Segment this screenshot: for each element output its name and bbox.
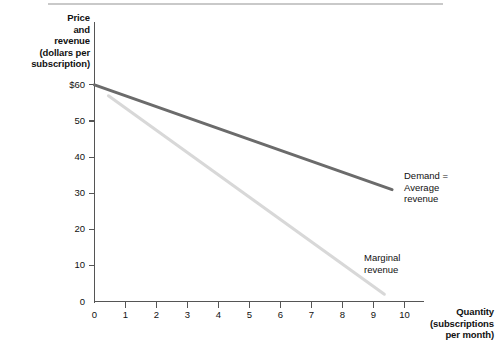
marginal-revenue-label-line-2: revenue [364,264,400,276]
x-axis-line [94,301,424,302]
demand-curve-label-line-1: Demand = [404,170,448,182]
y-axis-title-line-1: Price [8,12,90,24]
demand-curve-label-line-3: revenue [404,193,448,205]
y-axis-title-line-4: (dollars per [8,47,90,59]
y-axis-tick [89,84,95,85]
chart-figure: Price and revenue (dollars per subscript… [0,0,496,355]
x-axis-tick [156,302,157,308]
x-axis-tick-label: 6 [271,310,291,320]
x-axis-tick [311,302,312,308]
demand-curve-label: Demand = Average revenue [404,170,448,205]
y-axis-tick-label: 10 [51,260,85,270]
x-axis-tick [187,302,188,308]
x-axis-tick-label: 5 [240,310,260,320]
y-axis-tick [89,120,95,121]
x-axis-tick-label: 2 [147,310,167,320]
demand-curve-label-line-2: Average [404,182,448,194]
y-axis-line [94,22,95,303]
marginal-revenue-line [108,96,384,295]
y-axis-tick [89,265,95,266]
y-axis-title: Price and revenue (dollars per subscript… [8,12,90,70]
x-axis-tick-label: 10 [395,310,415,320]
x-axis-tick-label: 9 [364,310,384,320]
top-divider-rule [48,3,443,5]
y-axis-tick-label: 20 [51,224,85,234]
x-axis-title-line-3: per month) [398,329,494,341]
y-axis-title-line-5: subscription) [8,58,90,70]
y-axis-tick-label: $60 [51,80,85,90]
y-axis-tick [89,157,95,158]
x-axis-tick-label: 4 [209,310,229,320]
y-axis-tick-label: 50 [51,116,85,126]
y-axis-title-line-3: revenue [8,35,90,47]
x-axis-tick-label: 8 [333,310,353,320]
demand-average-revenue-line [95,85,393,190]
x-axis-tick-label: 1 [116,310,136,320]
y-axis-tick [89,229,95,230]
x-axis-tick [404,302,405,308]
marginal-revenue-curve-label: Marginal revenue [364,252,400,275]
y-axis-tick [89,193,95,194]
y-axis-tick-label: 30 [51,188,85,198]
x-axis-tick [373,302,374,308]
marginal-revenue-label-line-1: Marginal [364,252,400,264]
x-axis-tick [342,302,343,308]
x-axis-tick-label: 0 [85,310,105,320]
y-axis-tick-label: 40 [51,152,85,162]
y-axis-title-line-2: and [8,24,90,36]
x-axis-tick-label: 7 [302,310,322,320]
x-axis-tick [218,302,219,308]
y-axis-tick-label: 0 [51,297,85,307]
x-axis-tick [280,302,281,308]
x-axis-tick [249,302,250,308]
x-axis-tick [125,302,126,308]
x-axis-tick-label: 3 [178,310,198,320]
